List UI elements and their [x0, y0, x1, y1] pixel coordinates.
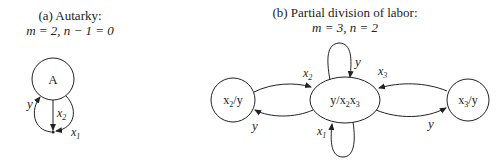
panel-b-diagram: x2/y y/x2x3 x3/y y x1 x2 y x3 y	[211, 43, 489, 157]
edge-left-to-center	[254, 84, 311, 92]
diagram-canvas: A y x2 x1 x2/y y/x2x3 x3/y y x1 x2 y	[0, 0, 500, 162]
node-left-label: x2/y	[223, 93, 242, 109]
edge-center-to-right-label: y	[426, 116, 434, 131]
panel-a-diagram: A y x2 x1	[25, 58, 80, 141]
sink-dot	[51, 130, 54, 133]
edge-right-to-center	[379, 84, 447, 91]
edge-a-y	[34, 97, 51, 132]
node-right-label: x3/y	[458, 93, 477, 109]
edge-center-to-left	[255, 110, 313, 116]
edge-a-x2-label: x2	[56, 106, 66, 122]
edge-top-loop	[328, 43, 351, 80]
edge-left-to-center-label: x2	[302, 66, 312, 82]
edge-a-y-label: y	[25, 96, 33, 111]
edge-top-loop-label: y	[353, 54, 361, 69]
edge-bottom-loop	[331, 122, 354, 157]
edge-a-x1-label: x1	[70, 125, 80, 141]
node-a-label: A	[48, 72, 58, 87]
node-center-label: y/x2x3	[330, 93, 359, 109]
edge-bottom-loop-label: x1	[316, 124, 326, 140]
edge-center-to-right	[376, 108, 446, 117]
edge-center-to-left-label: y	[250, 118, 258, 133]
edge-right-to-center-label: x3	[377, 64, 387, 80]
